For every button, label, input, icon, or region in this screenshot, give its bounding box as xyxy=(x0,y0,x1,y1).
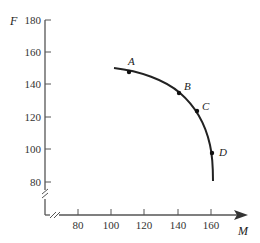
y-tick-label: 160 xyxy=(25,46,42,58)
y-tick-label: 140 xyxy=(25,78,42,90)
x-tick-label: 120 xyxy=(136,219,153,231)
curve-line xyxy=(114,68,213,181)
data-points: A B C D xyxy=(127,55,227,158)
point-a xyxy=(127,70,131,74)
point-label-d: D xyxy=(218,146,227,158)
y-tick-label: 120 xyxy=(25,111,42,123)
point-label-a: A xyxy=(127,55,135,67)
y-axis: 180 160 140 120 100 80 F xyxy=(9,14,51,215)
x-tick-label: 80 xyxy=(73,219,85,231)
point-d xyxy=(210,151,214,155)
point-c xyxy=(195,109,199,113)
point-label-c: C xyxy=(202,100,210,112)
point-b xyxy=(177,91,181,95)
x-axis-label: M xyxy=(237,224,249,238)
x-tick-label: 100 xyxy=(103,219,120,231)
x-axis: 80 100 120 140 160 M xyxy=(45,209,249,238)
point-label-b: B xyxy=(184,80,191,92)
x-tick-label: 140 xyxy=(170,219,187,231)
y-tick-label: 180 xyxy=(25,14,42,26)
chart: 180 160 140 120 100 80 F 80 100 120 140 … xyxy=(0,0,260,243)
y-axis-label: F xyxy=(9,14,18,28)
y-tick-label: 100 xyxy=(25,143,42,155)
x-tick-label: 160 xyxy=(203,219,220,231)
y-tick-label: 80 xyxy=(30,176,42,188)
